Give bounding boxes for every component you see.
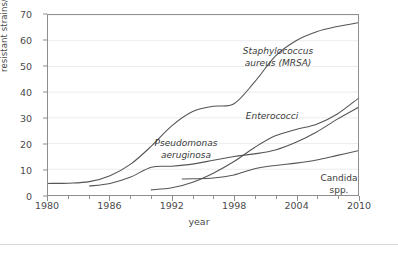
series-label-pseudomonas-line1: Pseudomonas [155,137,218,149]
series-curves [48,15,358,195]
series-label-mrsa: Staphylococcus aureus (MRSA) [243,45,313,69]
x-tick-mark [317,196,318,199]
x-tick-mark [276,196,277,199]
x-tick-mark [213,196,214,199]
series-label-candida: Candida spp. [321,172,358,196]
x-tick-label: 1998 [222,200,246,211]
series-label-candida-line1: Candida [321,172,358,184]
x-tick-label: 1986 [97,200,121,211]
y-tick-label: 70 [2,9,32,20]
y-tick-label: 40 [2,87,32,98]
series-label-mrsa-line1: Staphylococcus [243,45,313,57]
x-tick-label: 1980 [35,200,59,211]
resistance-chart-figure: resistant strains/% 010203040506070 1980… [0,0,398,257]
caption-divider [0,244,398,245]
x-tick-mark [193,196,194,199]
series-label-mrsa-line2: aureus (MRSA) [243,57,313,69]
series-label-pseudomonas-line2: aeruginosa [155,149,218,161]
x-tick-label: 2004 [285,200,309,211]
x-tick-mark [130,196,131,199]
x-tick-mark [68,196,69,199]
y-tick-label: 60 [2,35,32,46]
series-label-enterococci: Enterococci [246,110,299,122]
series-label-enterococci-text: Enterococci [246,110,299,122]
x-tick-mark [89,196,90,199]
plot-area [47,14,359,196]
x-tick-mark [338,196,339,199]
y-tick-label: 0 [2,191,32,202]
series-label-pseudomonas: Pseudomonas aeruginosa [155,137,218,161]
x-tick-label: 2010 [347,200,371,211]
x-axis-label: year [0,216,398,227]
series-label-candida-line2: spp. [321,184,358,196]
y-tick-label: 50 [2,61,32,72]
y-tick-label: 30 [2,113,32,124]
x-tick-mark [255,196,256,199]
y-tick-label: 20 [2,139,32,150]
x-tick-mark [151,196,152,199]
y-tick-label: 10 [2,165,32,176]
x-tick-label: 1992 [160,200,184,211]
